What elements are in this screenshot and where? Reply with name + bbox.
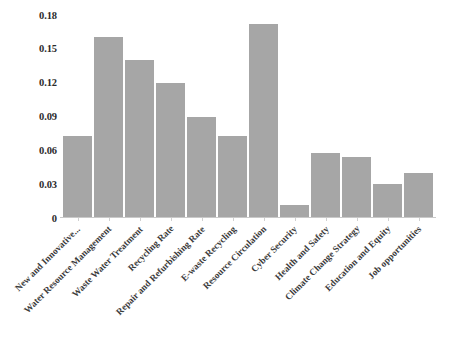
x-axis-category-label: Health and Safety [273,224,331,282]
bar [342,157,371,217]
x-axis-tick [202,218,203,221]
bar [311,153,340,217]
x-axis-category-label: E-waste Recycling [179,224,238,283]
x-axis-tick [388,218,389,221]
x-axis-tick [140,218,141,221]
y-axis-tick-label: 0.15 [39,43,57,54]
bar [156,83,185,217]
y-axis-tick-label: 0.06 [39,144,57,155]
y-axis-tick-label: 0.12 [39,77,57,88]
bar [187,117,216,217]
bar [63,136,92,217]
y-axis-tick-label: 0.09 [39,111,57,122]
bar-series [62,14,434,217]
x-axis-tick [357,218,358,221]
bar-chart: 00.030.060.090.120.150.18 New and Innova… [0,0,451,342]
bar [373,184,402,217]
bar [404,173,433,217]
x-axis-tick [264,218,265,221]
x-axis-tick [109,218,110,221]
x-axis-tick [295,218,296,221]
bar [280,205,309,217]
bar [125,60,154,217]
x-axis-category-labels: New and Innovative...Water Resource Mana… [0,218,451,342]
x-axis-tick [419,218,420,221]
bar [94,37,123,217]
bar [249,24,278,217]
bar [218,136,247,217]
x-axis-tick [326,218,327,221]
x-axis-tick [78,218,79,221]
y-axis: 00.030.060.090.120.150.18 [0,14,57,218]
x-axis-tick [171,218,172,221]
y-axis-tick-label: 0.03 [39,178,57,189]
x-axis-tick [233,218,234,221]
y-axis-tick-label: 0.18 [39,9,57,20]
